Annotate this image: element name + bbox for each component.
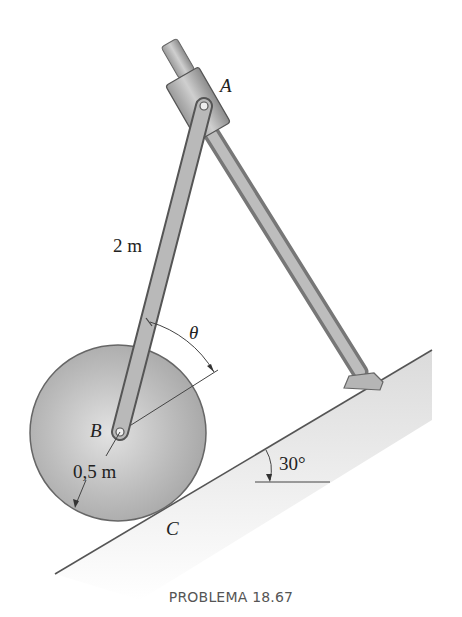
label-theta: θ — [189, 323, 198, 342]
label-point-b: B — [90, 421, 102, 440]
figure-caption: PROBLEMA 18.67 — [0, 589, 462, 605]
pin-a — [200, 102, 208, 110]
label-point-c: C — [166, 519, 179, 538]
label-radius: 0,5 m — [73, 462, 116, 481]
label-point-a: A — [220, 76, 232, 95]
label-rod-length: 2 m — [113, 236, 142, 255]
label-incline-angle: 30° — [279, 454, 306, 473]
